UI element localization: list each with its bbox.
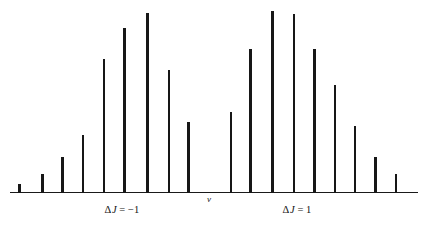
p-branch-equals-symbol: = (117, 204, 128, 215)
r-branch-equals-symbol: = (295, 204, 306, 215)
p-branch-spikes (20, 13, 189, 193)
spectrum-figure: ν ΔJ=−1 ΔJ=1 (0, 0, 427, 235)
p-branch-label: ΔJ=−1 (104, 204, 139, 215)
r-branch-label: ΔJ=1 (283, 204, 312, 215)
spectrum-plot (0, 0, 427, 235)
p-branch-delta-symbol: Δ (104, 204, 111, 215)
r-branch-value: 1 (306, 204, 311, 215)
r-branch-spikes (231, 11, 396, 193)
r-branch-delta-symbol: Δ (283, 204, 290, 215)
p-branch-value: −1 (128, 204, 140, 215)
band-origin-nu-label: ν (207, 194, 211, 204)
